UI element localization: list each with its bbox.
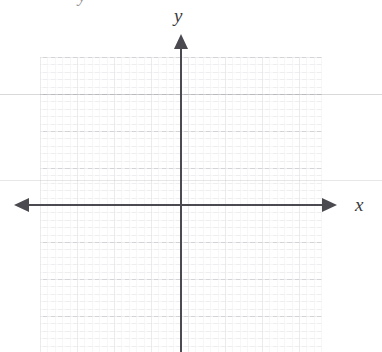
x-axis-label: x [355,195,363,214]
clipped-top-glyph: y [78,0,86,5]
x-axis-left-arrow-icon [14,198,29,212]
scan-artifact-line-lower [0,180,382,181]
coordinate-plane-figure: y x y [0,0,382,352]
y-axis-up-arrow-icon [174,34,188,49]
y-axis-line [180,36,182,352]
scan-artifact-line-upper [0,94,382,95]
x-axis-line [22,204,335,206]
y-axis-label: y [174,6,182,25]
x-axis-right-arrow-icon [322,198,337,212]
